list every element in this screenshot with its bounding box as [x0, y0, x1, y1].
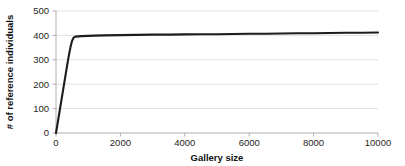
y-tick-label-400: 400	[33, 30, 49, 41]
y-tick-label-300: 300	[33, 54, 49, 65]
x-tick-marks	[56, 133, 378, 137]
x-tick-label-10000: 10000	[365, 137, 391, 148]
x-tick-label-2000: 2000	[110, 137, 131, 148]
x-tick-label-0: 0	[53, 137, 58, 148]
x-tick-label-4000: 4000	[174, 137, 195, 148]
y-tick-labels: 500 400 300 200 100 0	[33, 5, 49, 138]
y-tick-label-100: 100	[33, 103, 49, 114]
y-tick-label-500: 500	[33, 5, 49, 16]
y-tick-label-200: 200	[33, 79, 49, 90]
x-tick-label-8000: 8000	[303, 137, 324, 148]
x-tick-label-6000: 6000	[239, 137, 260, 148]
y-tick-marks	[53, 11, 57, 133]
x-axis-title: Gallery size	[191, 152, 244, 163]
x-tick-labels: 0 2000 4000 6000 8000 10000	[53, 137, 391, 148]
plot-background	[56, 11, 378, 133]
y-axis-title: # of reference individuals	[4, 15, 15, 130]
chart-figure: 500 400 300 200 100 0 0 2000 4000 6000 8…	[0, 0, 405, 166]
line-chart-plot: 500 400 300 200 100 0 0 2000 4000 6000 8…	[0, 0, 405, 166]
y-tick-label-0: 0	[44, 127, 49, 138]
